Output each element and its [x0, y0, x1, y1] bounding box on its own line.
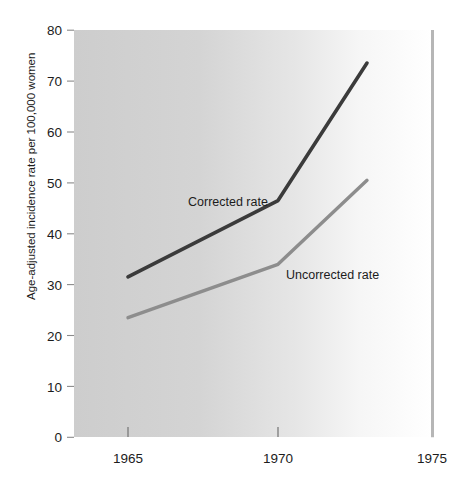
x-tick-labels: 1965 1970 1975	[113, 451, 447, 466]
y-tick-label-70: 70	[47, 74, 62, 89]
x-tick-label-1965: 1965	[113, 451, 143, 466]
y-tick-label-50: 50	[47, 176, 62, 191]
y-tick-label-40: 40	[47, 227, 62, 242]
y-tick-labels: 80 70 60 50 40 30 20 10 0	[47, 23, 62, 445]
y-axis-title: Age-adjusted incidence rate per 100,000 …	[25, 53, 37, 300]
incidence-rate-line-chart: 80 70 60 50 40 30 20 10 0 1965 1970 1975…	[0, 0, 460, 495]
y-tick-marks	[67, 30, 74, 437]
y-tick-label-10: 10	[47, 380, 62, 395]
y-tick-label-20: 20	[47, 329, 62, 344]
series-label-corrected-rate: Corrected rate	[188, 195, 268, 209]
series-label-uncorrected-rate: Uncorrected rate	[286, 268, 379, 282]
y-tick-label-0: 0	[54, 430, 62, 445]
x-tick-label-1970: 1970	[263, 451, 293, 466]
y-tick-label-60: 60	[47, 125, 62, 140]
y-tick-label-30: 30	[47, 278, 62, 293]
y-tick-label-80: 80	[47, 23, 62, 38]
x-tick-label-1975: 1975	[417, 451, 447, 466]
